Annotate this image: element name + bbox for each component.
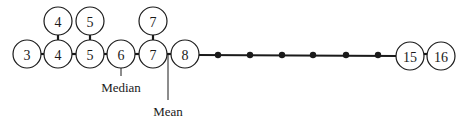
gap-dot: [310, 52, 316, 58]
node-value: 4: [55, 15, 62, 30]
node-value: 8: [182, 48, 189, 63]
node-value: 5: [87, 15, 94, 30]
row-node-5: 5: [76, 40, 104, 68]
stacked-node-7: 7: [139, 7, 167, 35]
node-value: 6: [118, 48, 125, 63]
node-value: 3: [24, 48, 31, 63]
dot-plot-diagram: 3456781516 457 Median Mean: [0, 0, 464, 125]
gap-dot: [215, 52, 221, 58]
gap-dot: [279, 52, 285, 58]
number-line-gap: [199, 55, 396, 56]
node-value: 16: [434, 50, 448, 65]
median-label: Median: [101, 80, 141, 95]
row-node-4: 4: [44, 40, 72, 68]
node-value: 7: [150, 15, 157, 30]
gap-dot: [375, 52, 381, 58]
row-node-6: 6: [107, 40, 135, 68]
stack-connectors: [58, 35, 153, 40]
stacked-nodes: 457: [44, 7, 167, 35]
mean-label: Mean: [153, 104, 183, 119]
node-value: 4: [55, 48, 62, 63]
row-node-15: 15: [396, 42, 424, 70]
row-node-3: 3: [13, 40, 41, 68]
row-node-8: 8: [171, 40, 199, 68]
gap-dot: [247, 52, 253, 58]
node-value: 5: [87, 48, 94, 63]
stacked-node-4: 4: [44, 7, 72, 35]
row-node-16: 16: [427, 42, 455, 70]
stacked-node-5: 5: [76, 7, 104, 35]
row-node-7: 7: [139, 40, 167, 68]
node-value: 7: [150, 48, 157, 63]
gap-dot: [343, 52, 349, 58]
node-value: 15: [403, 50, 417, 65]
